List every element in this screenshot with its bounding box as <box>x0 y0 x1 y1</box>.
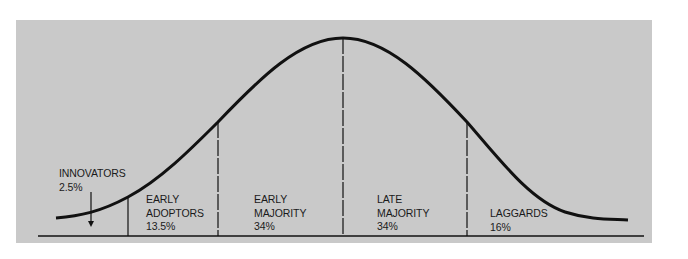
segment-name: INNOVATORS <box>59 167 126 181</box>
segment-name-line1: EARLY <box>146 193 204 207</box>
segment-percent: 13.5% <box>146 220 204 234</box>
label-late-majority: LATE MAJORITY 34% <box>377 193 429 234</box>
segment-name: LAGGARDS <box>490 207 548 221</box>
label-laggards: LAGGARDS 16% <box>490 207 548 234</box>
bell-curve-diagram <box>0 0 688 259</box>
segment-name-line1: LATE <box>377 193 429 207</box>
segment-percent: 34% <box>254 220 306 234</box>
label-innovators: INNOVATORS 2.5% <box>59 167 126 194</box>
segment-name-line1: EARLY <box>254 193 306 207</box>
adoption-curve <box>56 38 628 220</box>
segment-name-line2: MAJORITY <box>254 207 306 221</box>
label-early-majority: EARLY MAJORITY 34% <box>254 193 306 234</box>
arrow-head-icon <box>88 221 94 227</box>
segment-percent: 2.5% <box>59 181 126 195</box>
label-early-adopters: EARLY ADOPTORS 13.5% <box>146 193 204 234</box>
segment-name-line2: ADOPTORS <box>146 207 204 221</box>
segment-percent: 16% <box>490 221 548 235</box>
segment-percent: 34% <box>377 220 429 234</box>
segment-name-line2: MAJORITY <box>377 207 429 221</box>
